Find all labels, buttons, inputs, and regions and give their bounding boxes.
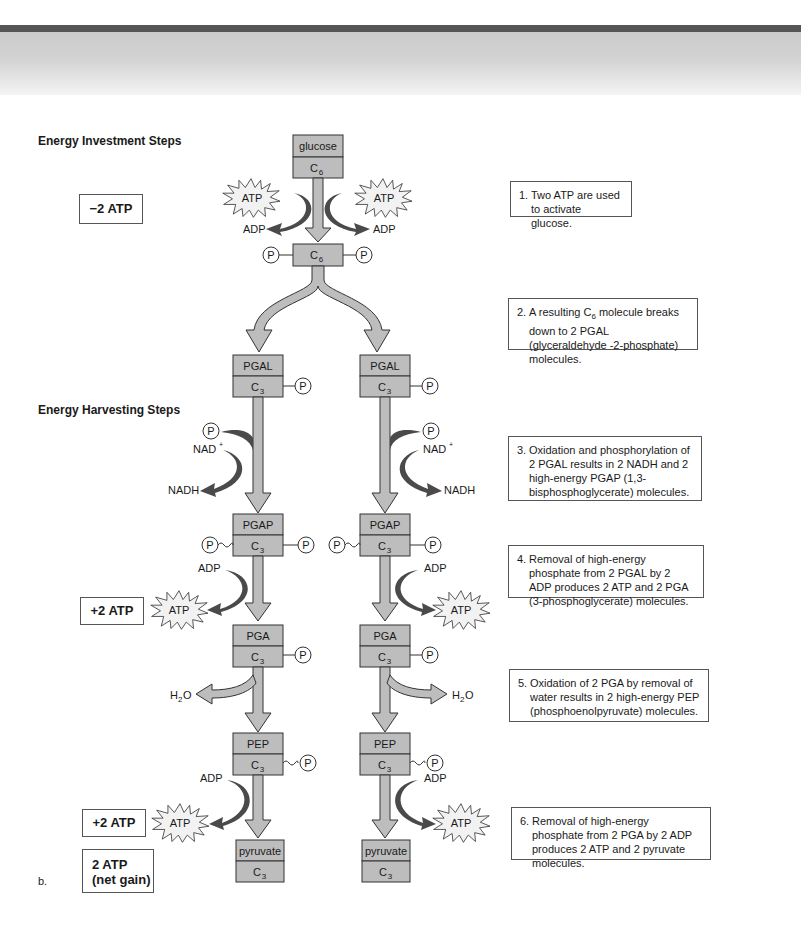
- harvest-atp-label-1: +2 ATP: [91, 603, 134, 618]
- svg-text:P: P: [427, 425, 434, 437]
- svg-text:P: P: [267, 249, 274, 261]
- svg-text:ATP: ATP: [169, 604, 190, 616]
- step-text: Oxidation of 2 PGA by removal of water r…: [518, 676, 700, 718]
- step-text: Removal of high-energy phosphate from 2 …: [517, 552, 695, 608]
- harvest-atp-box-2: +2 ATP: [82, 809, 146, 837]
- step-text: Oxidation and phosphorylation of 2 PGAL …: [517, 443, 693, 499]
- svg-text:O: O: [183, 689, 192, 701]
- step-text: A resulting C6 molecule breaks down to 2…: [517, 305, 689, 366]
- adp-label: ADP: [243, 223, 266, 235]
- investment-atp-box: −2 ATP: [79, 194, 143, 224]
- investment-atp-label: −2 ATP: [90, 201, 133, 216]
- svg-text:pyruvate: pyruvate: [365, 845, 407, 857]
- svg-text:C: C: [378, 651, 386, 663]
- svg-text:+: +: [449, 441, 453, 448]
- svg-text:P: P: [207, 425, 214, 437]
- svg-text:ATP: ATP: [451, 604, 472, 616]
- svg-text:+: +: [219, 441, 223, 448]
- svg-text:H: H: [170, 689, 178, 701]
- svg-text:PGA: PGA: [373, 630, 397, 642]
- step-1-box: 1. Two ATP are used to activate glucose.: [510, 181, 632, 217]
- svg-text:3: 3: [260, 765, 265, 774]
- section-label-harvesting: Energy Harvesting Steps: [38, 403, 180, 417]
- step-6-box: 6. Removal of high-energy phosphate from…: [511, 807, 711, 860]
- glucose-box: glucose C 6: [293, 135, 343, 178]
- svg-text:ADP: ADP: [198, 562, 221, 574]
- svg-text:3: 3: [260, 546, 265, 555]
- harvest-atp-box-1: +2 ATP: [80, 597, 144, 625]
- svg-text:6: 6: [319, 168, 324, 177]
- svg-text:ADP: ADP: [424, 562, 447, 574]
- svg-text:C: C: [378, 759, 386, 771]
- step-text: Two ATP are used to activate glucose.: [519, 188, 623, 230]
- svg-text:C: C: [379, 866, 387, 878]
- svg-text:P: P: [302, 539, 309, 551]
- svg-text:P: P: [431, 757, 438, 769]
- svg-text:glucose: glucose: [299, 140, 337, 152]
- svg-text:C: C: [378, 381, 386, 393]
- step-number: 4.: [517, 552, 526, 566]
- step-text: Removal of high-energy phosphate from 2 …: [520, 814, 702, 870]
- svg-text:PGAL: PGAL: [370, 360, 399, 372]
- svg-text:3: 3: [260, 387, 265, 396]
- svg-text:3: 3: [387, 387, 392, 396]
- svg-text:ADP: ADP: [200, 772, 223, 784]
- svg-text:3: 3: [262, 872, 267, 881]
- svg-text:3: 3: [388, 872, 393, 881]
- fructose-bisphosphate-box: C 6 P P: [263, 244, 372, 266]
- svg-text:6: 6: [319, 255, 324, 264]
- net-gain-line1: 2 ATP: [92, 857, 153, 872]
- svg-text:NADH: NADH: [168, 484, 199, 496]
- svg-text:C: C: [310, 249, 318, 261]
- net-gain-line2: (net gain): [92, 872, 153, 887]
- svg-text:C: C: [251, 381, 259, 393]
- svg-text:P: P: [426, 380, 433, 392]
- svg-text:PGAL: PGAL: [243, 360, 272, 372]
- svg-text:ATP: ATP: [170, 817, 191, 829]
- svg-text:C: C: [251, 540, 259, 552]
- atp-starburst-left: ATP: [223, 179, 280, 218]
- svg-text:NADH: NADH: [444, 484, 475, 496]
- svg-text:3: 3: [387, 546, 392, 555]
- step-3-box: 3. Oxidation and phosphorylation of 2 PG…: [508, 436, 702, 501]
- svg-text:C: C: [251, 759, 259, 771]
- svg-text:P: P: [360, 249, 367, 261]
- svg-text:ATP: ATP: [451, 817, 472, 829]
- step-number: 3.: [517, 443, 526, 457]
- svg-text:PEP: PEP: [374, 738, 396, 750]
- svg-text:P: P: [333, 539, 340, 551]
- svg-text:ADP: ADP: [424, 772, 447, 784]
- svg-text:C: C: [310, 162, 318, 174]
- svg-text:P: P: [429, 539, 436, 551]
- svg-text:pyruvate: pyruvate: [239, 845, 281, 857]
- svg-text:3: 3: [387, 657, 392, 666]
- split-arrow-icon: [246, 266, 390, 352]
- svg-text:PGA: PGA: [246, 630, 270, 642]
- svg-text:P: P: [299, 649, 306, 661]
- step-number: 5.: [518, 676, 527, 690]
- section-label-investment: Energy Investment Steps: [38, 134, 182, 148]
- svg-text:C: C: [378, 540, 386, 552]
- svg-text:O: O: [465, 689, 474, 701]
- net-gain-box: 2 ATP (net gain): [82, 849, 154, 893]
- svg-text:P: P: [206, 539, 213, 551]
- left-column: PGAL C 3 P P NAD + NADH PGAP C 3 P P ADP…: [151, 355, 316, 882]
- step-4-box: 4. Removal of high-energy phosphate from…: [508, 545, 704, 598]
- svg-text:NAD: NAD: [193, 443, 216, 455]
- step-2-box: 2. A resulting C6 molecule breaks down t…: [508, 298, 698, 350]
- svg-text:3: 3: [260, 657, 265, 666]
- svg-text:C: C: [253, 866, 261, 878]
- atp-starburst-right: ATP: [355, 179, 412, 218]
- svg-text:NAD: NAD: [423, 443, 446, 455]
- svg-text:P: P: [426, 649, 433, 661]
- right-column: PGAL C 3 P P NAD + NADH PGAP C 3 P P ADP…: [329, 355, 490, 882]
- harvest-atp-label-2: +2 ATP: [93, 815, 136, 830]
- svg-text:ATP: ATP: [242, 192, 263, 204]
- step-number: 1.: [519, 188, 528, 202]
- step-number: 6.: [520, 814, 529, 828]
- step-number: 2.: [517, 305, 526, 319]
- svg-text:P: P: [299, 380, 306, 392]
- svg-text:ATP: ATP: [374, 192, 395, 204]
- svg-text:H: H: [452, 689, 460, 701]
- svg-text:PGAP: PGAP: [243, 519, 274, 531]
